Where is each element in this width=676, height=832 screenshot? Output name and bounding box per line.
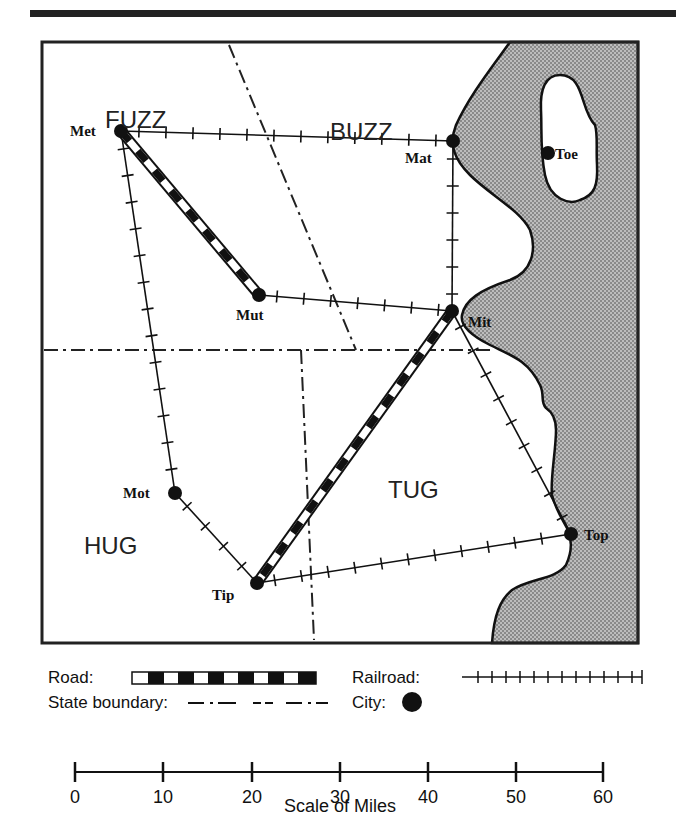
region-label-fuzz: FUZZ bbox=[105, 106, 166, 133]
city-label-toe: Toe bbox=[555, 146, 578, 162]
city-dot-mit bbox=[445, 304, 459, 318]
region-label-buzz: BUZZ bbox=[330, 118, 393, 145]
railroad-mot-tip bbox=[175, 493, 257, 583]
scale-tick-40: 40 bbox=[418, 787, 438, 808]
city-dot-mat bbox=[446, 134, 460, 148]
scale-tick-20: 20 bbox=[242, 787, 262, 808]
scale-tick-10: 10 bbox=[153, 787, 173, 808]
railroad-tip-top bbox=[257, 533, 571, 586]
legend-road-label: Road: bbox=[48, 668, 93, 688]
region-label-tug: TUG bbox=[388, 476, 439, 503]
legend-state-boundary-label: State boundary: bbox=[48, 693, 168, 713]
city-label-top: Top bbox=[584, 527, 608, 543]
legend-railroad-label: Railroad: bbox=[352, 668, 420, 688]
city-label-tip: Tip bbox=[212, 587, 234, 603]
city-label-met: Met bbox=[70, 123, 96, 139]
legend-road-swatch bbox=[132, 672, 316, 684]
region-label-hug: HUG bbox=[84, 532, 137, 559]
city-dot-toe bbox=[541, 146, 555, 160]
legend-city-swatch bbox=[402, 692, 422, 712]
scale-tick-0: 0 bbox=[70, 787, 80, 808]
railroad-mut-mit bbox=[259, 291, 452, 316]
roads bbox=[121, 131, 452, 583]
legend-railroad-swatch bbox=[462, 670, 642, 684]
city-dot-mut bbox=[252, 288, 266, 302]
road-mit-tip bbox=[257, 311, 452, 583]
city-label-mut: Mut bbox=[236, 307, 264, 323]
scale-tick-50: 50 bbox=[506, 787, 526, 808]
scale-tick-60: 60 bbox=[593, 787, 613, 808]
city-dot-tip bbox=[250, 576, 264, 590]
scale-bar bbox=[75, 762, 603, 782]
city-label-mat: Mat bbox=[405, 150, 432, 166]
scale-title: Scale of Miles bbox=[284, 796, 396, 817]
city-dot-mot bbox=[168, 486, 182, 500]
city-label-mot: Mot bbox=[123, 485, 150, 501]
railroad-met-mat bbox=[121, 126, 453, 147]
railroad-mat-mit bbox=[446, 141, 459, 311]
legend-city-label: City: bbox=[352, 693, 386, 713]
city-dot-top bbox=[564, 527, 578, 541]
city-label-mit: Mit bbox=[468, 314, 491, 330]
